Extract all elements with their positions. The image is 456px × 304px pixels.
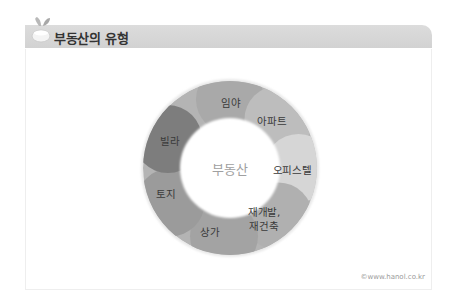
segment-label: 빌라 [160, 134, 179, 148]
segment-label: 재개발,재건축 [248, 205, 280, 233]
real-estate-type-ring [0, 0, 456, 304]
segment-label: 오피스텔 [273, 163, 312, 177]
segment-label: 상가 [200, 225, 219, 239]
segment-label: 임야 [221, 96, 240, 110]
segment-label: 토지 [156, 187, 175, 201]
center-label: 부동산 [212, 159, 247, 178]
segment-label: 아파트 [257, 114, 286, 128]
copyright-text: ©www.hanol.co.kr [360, 273, 425, 281]
